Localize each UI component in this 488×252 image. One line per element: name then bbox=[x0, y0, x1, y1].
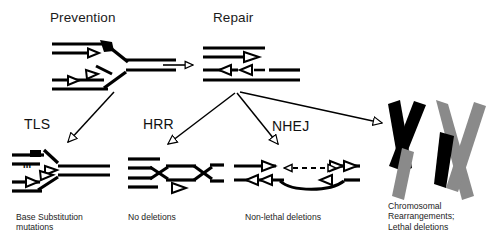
mutation-marker-label: m bbox=[23, 160, 31, 170]
double-strand-break bbox=[203, 48, 300, 80]
hrr-product-crossover bbox=[128, 159, 224, 193]
header-repair: Repair bbox=[213, 10, 253, 25]
caption-non-lethal-deletions: Non-lethal deletions bbox=[245, 212, 321, 222]
arrow-chromosomal bbox=[240, 92, 382, 123]
replication-fork bbox=[52, 40, 176, 89]
pathway-label-nhej: NHEJ bbox=[272, 118, 309, 134]
chromosome-gray bbox=[434, 100, 486, 200]
caption-chromosomal-rearrangements: Chromosomal Rearrangements; Lethal delet… bbox=[388, 201, 454, 232]
chromosome-black bbox=[388, 100, 426, 200]
pathway-label-hrr: HRR bbox=[143, 116, 174, 132]
dna-damage-response-figure: Prevention Repair TLS HRR NHEJ m Base Su… bbox=[0, 0, 488, 252]
header-prevention: Prevention bbox=[50, 10, 116, 25]
arrow-hrr bbox=[168, 93, 235, 144]
pathway-label-tls: TLS bbox=[24, 116, 50, 132]
arrow-tls bbox=[68, 92, 114, 142]
nhej-product-deletion bbox=[234, 161, 360, 189]
tls-product-fork bbox=[12, 150, 110, 191]
chromosome-pair bbox=[388, 100, 486, 200]
caption-no-deletions: No deletions bbox=[128, 212, 176, 222]
caption-base-substitution: Base Substitution mutations bbox=[16, 212, 83, 233]
